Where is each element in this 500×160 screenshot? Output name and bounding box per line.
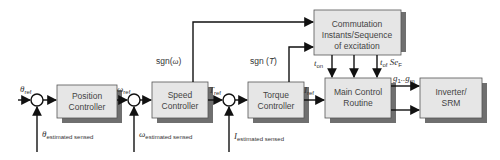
sgn-omega-arrow: [193, 22, 313, 82]
t-ref-label: Tref: [209, 85, 221, 96]
commutation-label-2: Instants/Sequence: [322, 30, 393, 40]
sum-junction-position: [31, 94, 43, 106]
theta-feedback-label: θestimated sensed: [42, 129, 93, 140]
sgn-omega-label: sgn(ω): [156, 56, 182, 66]
commutation-label-1: Commutation: [332, 19, 383, 29]
gates-label: g1..gm: [393, 73, 415, 84]
position-label-2: Controller: [69, 102, 106, 112]
speed-label-1: Speed: [168, 90, 193, 100]
t-of-se-label: tof SeF: [380, 57, 402, 68]
position-label-1: Position: [72, 91, 103, 101]
speed-controller-block: [152, 82, 208, 118]
main-control-label-2: Routine: [343, 98, 373, 108]
theta-ref-label: θref: [20, 84, 32, 95]
main-control-label-1: Main Control: [334, 87, 382, 97]
sgn-t-label: sgn (T): [250, 56, 277, 66]
sum-junction-torque: [223, 94, 235, 106]
torque-label-2: Controller: [258, 101, 295, 111]
i-ref-label: Iref: [303, 85, 314, 96]
omega-ref-label: ωref: [117, 84, 131, 95]
commutation-label-3: of excitation: [334, 41, 380, 51]
torque-controller-block: [248, 82, 304, 118]
inverter-label-2: SRM: [442, 98, 461, 108]
t-on-label: ton: [314, 58, 323, 69]
torque-label-1: Torque: [263, 90, 289, 100]
current-feedback-label: Iestimated sensed: [233, 131, 284, 142]
inverter-label-1: Inverter/: [435, 87, 467, 97]
speed-label-2: Controller: [162, 101, 199, 111]
sum-junction-speed: [128, 94, 140, 106]
control-block-diagram: Position Controller Speed Controller Tor…: [0, 0, 500, 160]
sgn-t-arrow: [289, 47, 313, 82]
omega-feedback-label: ωestimated sensed: [139, 129, 192, 140]
